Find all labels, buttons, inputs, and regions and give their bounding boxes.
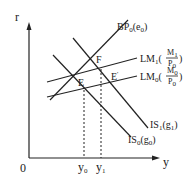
y-axis-label: y [163,155,169,169]
svg-text:M1: M1 [167,48,178,59]
svg-text:P0: P0 [168,77,176,88]
svg-text:): ) [179,71,182,83]
lm0-curve [47,76,137,97]
origin-label: 0 [20,161,26,175]
y-axis-arrow-icon [27,22,32,30]
tick-y1: y1 [96,160,106,175]
r-axis-label: r [15,10,19,24]
tick-y0: y0 [78,160,88,175]
x-axis-arrow-icon [152,156,160,161]
is-lm-bp-diagram: r y 0 y0 y1 E F E' BP0(e0) LM1( M1 P0 ) … [0,0,194,189]
svg-text:M0: M0 [167,66,178,77]
point-e-label: E [78,77,84,88]
lm0-curve-label: LM0( M0 P0 ) [140,66,182,88]
svg-text:LM1(: LM1( [140,53,163,66]
is0-curve [53,55,131,137]
svg-text:): ) [179,53,182,65]
bp-curve-label: BP0(e0) [117,21,147,34]
is0-curve-label: IS0(g0) [128,134,156,147]
bp-curve [50,20,128,100]
svg-text:LM0(: LM0( [140,71,163,84]
lm1-curve-label: LM1( M1 P0 ) [140,48,182,70]
point-f-label: F [96,54,102,65]
is1-curve-label: IS1(g1) [150,119,178,132]
